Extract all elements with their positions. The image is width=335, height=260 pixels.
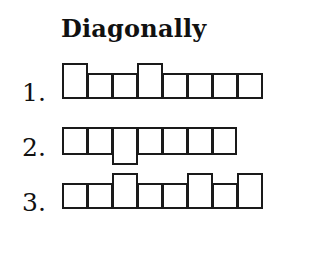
row-number-2: 2.: [22, 135, 46, 160]
row-1-cell-8: [237, 73, 263, 99]
row-3-cell-5: [162, 183, 188, 209]
row-1-cell-2: [87, 73, 113, 99]
diagram-title: Diagonally: [61, 14, 206, 43]
row-3-cell-3: [112, 173, 138, 209]
row-3-cell-1: [62, 183, 88, 209]
row-1-cell-7: [212, 73, 238, 99]
row-2-cell-1: [62, 127, 88, 155]
row-2-cell-7: [212, 127, 237, 155]
row-3-cell-4: [137, 183, 163, 209]
row-2-cell-5: [162, 127, 188, 155]
row-3-cell-7: [212, 183, 238, 209]
row-1-cell-5: [162, 73, 188, 99]
row-3-cell-6: [187, 173, 213, 209]
row-2-cell-6: [187, 127, 213, 155]
row-1-cell-1: [62, 63, 88, 99]
row-2-cell-2: [87, 127, 113, 155]
row-1-cell-3: [112, 73, 138, 99]
row-1-cell-6: [187, 73, 213, 99]
row-3-cell-2: [87, 183, 113, 209]
row-number-3: 3.: [22, 190, 46, 215]
row-number-1: 1.: [22, 80, 46, 105]
row-2-cell-4: [137, 127, 163, 155]
row-1-cell-4: [137, 63, 163, 99]
row-3-cell-8: [237, 173, 263, 209]
row-2-cell-3: [112, 127, 138, 165]
